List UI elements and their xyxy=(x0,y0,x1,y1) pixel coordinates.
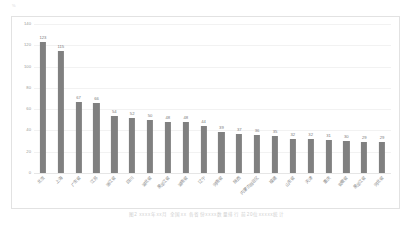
bar[interactable] xyxy=(325,140,331,173)
bar-value-label: 66 xyxy=(94,97,99,101)
bar-value-label: 54 xyxy=(112,110,117,114)
bar-value-label: 32 xyxy=(290,133,295,137)
x-axis-category-label: 天津 xyxy=(305,176,314,185)
bar-value-label: 29 xyxy=(362,136,367,140)
y-axis-tick-label: 0 xyxy=(29,171,31,175)
bar-group[interactable]: 52四川 xyxy=(123,24,141,173)
bar-value-label: 37 xyxy=(237,128,242,132)
x-axis-category-label: 河南省 xyxy=(213,176,225,188)
bar-group[interactable]: 32山东省 xyxy=(284,24,302,173)
bar[interactable] xyxy=(272,136,278,173)
bar-value-label: 67 xyxy=(76,96,81,100)
bar-series: 123北京115上海67广东省66江苏54浙江省52四川50湖北省48黑龙江省4… xyxy=(34,24,391,173)
bar-group[interactable]: 39河南省 xyxy=(213,24,231,173)
x-axis-category-label: 黑龙江省 xyxy=(157,176,171,190)
bar-value-label: 39 xyxy=(219,126,224,130)
x-axis-category-label: 内蒙古自治区 xyxy=(240,176,260,196)
bar[interactable] xyxy=(236,134,242,173)
bar-group[interactable]: 44辽宁 xyxy=(195,24,213,173)
bar-value-label: 123 xyxy=(39,36,46,40)
y-axis-tick-label: 80 xyxy=(26,86,31,90)
bar[interactable] xyxy=(361,142,367,173)
bar-group[interactable]: 29河北省 xyxy=(373,24,391,173)
x-axis-category-label: 福建 xyxy=(269,176,278,185)
bar-value-label: 52 xyxy=(130,112,135,116)
y-axis-tick-label: 20 xyxy=(26,150,31,154)
bar[interactable] xyxy=(200,126,206,173)
chart-frame: 020406080100120140 123北京115上海67广东省66江苏54… xyxy=(11,16,400,209)
y-axis-tick-label: 60 xyxy=(26,107,31,111)
x-axis-category-label: 河北省 xyxy=(374,176,386,188)
bar[interactable] xyxy=(290,139,296,173)
bar-group[interactable]: 37陕西 xyxy=(230,24,248,173)
bar-value-label: 48 xyxy=(183,116,188,120)
bar-value-label: 31 xyxy=(326,134,331,138)
bar[interactable] xyxy=(76,102,82,173)
bar-group[interactable]: 48黑龙江省 xyxy=(159,24,177,173)
bar-group[interactable]: 35福建 xyxy=(266,24,284,173)
x-axis-category-label: 北京 xyxy=(37,176,46,185)
bar-value-label: 50 xyxy=(148,114,153,118)
bar-group[interactable]: 29黑龙江省 xyxy=(355,24,373,173)
bar[interactable] xyxy=(129,118,135,173)
x-axis-category-label: 浙江省 xyxy=(106,176,118,188)
x-axis-category-label: 黑龙江省 xyxy=(353,176,367,190)
bar-value-label: 48 xyxy=(166,116,171,120)
bar-group[interactable]: 54浙江省 xyxy=(105,24,123,173)
x-axis-category-label: 湖北省 xyxy=(142,176,154,188)
x-axis-category-label: 湖南省 xyxy=(177,176,189,188)
bar-value-label: 44 xyxy=(201,120,206,124)
bar[interactable] xyxy=(58,51,64,173)
bar-value-label: 30 xyxy=(344,135,349,139)
bar-value-label: 32 xyxy=(308,133,313,137)
x-axis-category-label: 广东省 xyxy=(70,176,82,188)
bar-group[interactable]: 66江苏 xyxy=(88,24,106,173)
corner-mark: % xyxy=(12,3,16,8)
bar[interactable] xyxy=(165,122,171,173)
y-axis-tick-label: 100 xyxy=(24,64,31,68)
y-axis-tick-label: 120 xyxy=(24,43,31,47)
bar[interactable] xyxy=(254,135,260,173)
bar-group[interactable]: 32天津 xyxy=(302,24,320,173)
gridline xyxy=(34,173,391,174)
x-axis-category-label: 江苏 xyxy=(91,176,100,185)
bar-group[interactable]: 48湖南省 xyxy=(177,24,195,173)
bar-group[interactable]: 50湖北省 xyxy=(141,24,159,173)
bar[interactable] xyxy=(343,141,349,173)
x-axis-category-label: 上海 xyxy=(55,176,64,185)
bar-group[interactable]: 67广东省 xyxy=(70,24,88,173)
x-axis-category-label: 辽宁 xyxy=(198,176,207,185)
bar-group[interactable]: 31重庆 xyxy=(320,24,338,173)
y-axis-tick-label: 140 xyxy=(24,22,31,26)
x-axis-category-label: 山东省 xyxy=(284,176,296,188)
bar[interactable] xyxy=(308,139,314,173)
x-axis-category-label: 四川 xyxy=(127,176,136,185)
y-axis-tick-label: 40 xyxy=(26,128,31,132)
bar[interactable] xyxy=(147,120,153,173)
bar[interactable] xyxy=(111,116,117,173)
bar[interactable] xyxy=(40,42,46,173)
figure-caption: 图2 xxxx年xx月 全国xx 各省份xxxx数量排行 前20位xxxxx统计 xyxy=(0,213,413,218)
bar[interactable] xyxy=(379,142,385,173)
bar[interactable] xyxy=(218,132,224,174)
bar[interactable] xyxy=(93,103,99,173)
bar-value-label: 35 xyxy=(273,130,278,134)
bar[interactable] xyxy=(183,122,189,173)
bar-value-label: 36 xyxy=(255,129,260,133)
bar-group[interactable]: 123北京 xyxy=(34,24,52,173)
x-axis-category-label: 重庆 xyxy=(323,176,332,185)
bar-group[interactable]: 30安徽省 xyxy=(337,24,355,173)
bar-value-label: 29 xyxy=(380,136,385,140)
x-axis-category-label: 安徽省 xyxy=(338,176,350,188)
x-axis-category-label: 陕西 xyxy=(234,176,243,185)
bar-group[interactable]: 36内蒙古自治区 xyxy=(248,24,266,173)
bar-group[interactable]: 115上海 xyxy=(52,24,70,173)
bar-value-label: 115 xyxy=(57,45,64,49)
plot-area: 020406080100120140 123北京115上海67广东省66江苏54… xyxy=(34,24,391,173)
